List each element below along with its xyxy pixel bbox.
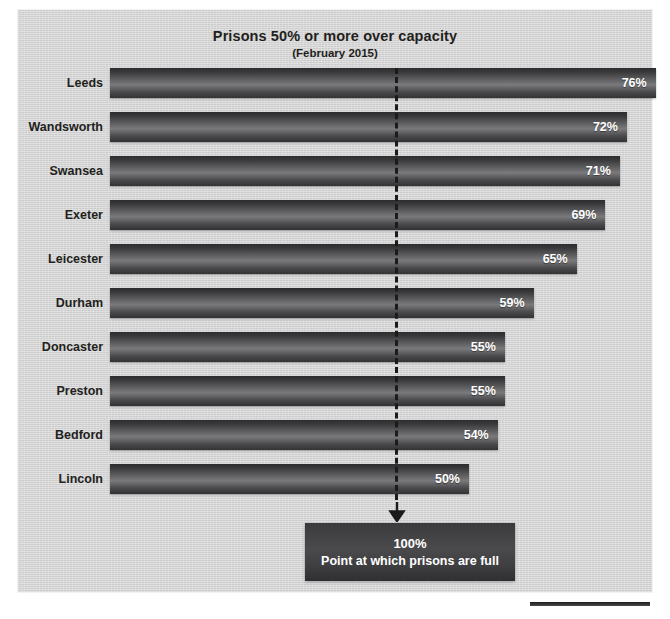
bar: 50% [110,464,469,494]
bar: 76% [110,68,656,98]
bar-row: Wandsworth72% [18,112,652,142]
bar-label: Wandsworth [28,112,103,142]
bar-label: Exeter [65,200,103,230]
bar-row: Swansea71% [18,156,652,186]
bar-value-label: 55% [471,340,505,354]
bar-label: Doncaster [42,332,103,362]
bar-row: Durham59% [18,288,652,318]
bar: 71% [110,156,620,186]
bar-label: Preston [56,376,103,406]
plot-area: Lincoln50%Bedford54%Preston55%Doncaster5… [18,10,652,592]
bar-value-label: 54% [464,428,498,442]
bar-label: Leeds [67,68,103,98]
bar-value-label: 71% [586,164,620,178]
bar-value-label: 55% [471,384,505,398]
bar-row: Doncaster55% [18,332,652,362]
bar-label: Swansea [49,156,103,186]
callout-value: 100% [393,536,426,551]
bar: 55% [110,332,505,362]
bar: 54% [110,420,498,450]
bar-value-label: 65% [543,252,577,266]
chart-panel: Prisons 50% or more over capacity (Febru… [18,10,652,592]
bar: 59% [110,288,534,318]
bar-value-label: 50% [435,472,469,486]
bar-label: Leicester [48,244,103,274]
bar-label: Lincoln [59,464,103,494]
bar: 69% [110,200,605,230]
callout-description: Point at which prisons are full [321,554,499,568]
bar-row: Exeter69% [18,200,652,230]
bar-value-label: 69% [571,208,605,222]
bar: 65% [110,244,577,274]
bar-value-label: 76% [622,76,656,90]
capacity-reference-line [395,68,398,500]
bar: 72% [110,112,627,142]
bar-row: Leicester65% [18,244,652,274]
footer-rule [530,602,650,606]
bar-value-label: 59% [500,296,534,310]
bar-row: Preston55% [18,376,652,406]
bar-row: Lincoln50% [18,464,652,494]
bar-label: Bedford [55,420,103,450]
bar-row: Leeds76% [18,68,652,98]
bar: 55% [110,376,505,406]
bar-value-label: 72% [593,120,627,134]
down-arrow-icon [388,502,406,522]
capacity-callout-box: 100% Point at which prisons are full [305,523,515,581]
bar-row: Bedford54% [18,420,652,450]
bar-label: Durham [56,288,103,318]
